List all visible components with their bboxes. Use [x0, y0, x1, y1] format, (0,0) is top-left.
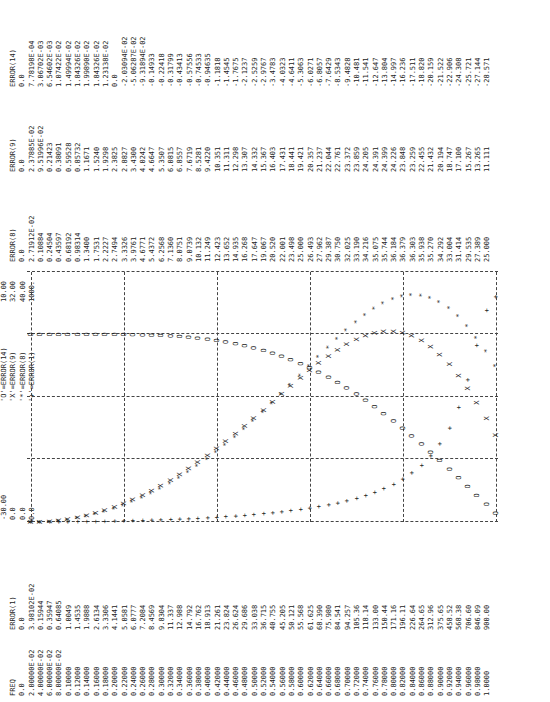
plot-point: O	[390, 419, 397, 423]
plot-point: X	[334, 348, 341, 352]
table-cell: 22.761	[334, 126, 343, 172]
plot-point: *	[307, 364, 314, 368]
plot-point: *	[316, 354, 323, 358]
plot-point: *	[111, 506, 118, 510]
table-cell: 0.60000	[297, 650, 306, 696]
table-cell: 6.54602E-03	[46, 36, 55, 87]
table-cell: 7.1360	[167, 216, 176, 262]
grid-hline	[403, 272, 404, 522]
plot-point: *	[483, 349, 490, 353]
plot-point: X	[344, 342, 351, 346]
plot-point: *	[418, 293, 425, 297]
grid-vline	[27, 396, 498, 397]
plot-point: *	[344, 328, 351, 332]
plot-point: O	[288, 358, 295, 362]
table-cell: -21.522	[437, 36, 446, 87]
table-cell: 0.32000	[167, 650, 176, 696]
table-cell: 4.6647	[148, 126, 157, 172]
plot-point: O	[65, 332, 72, 336]
plot-point: *	[130, 499, 137, 503]
table-cell: 6.0777	[130, 584, 139, 630]
table-cell: 0.88000	[427, 650, 436, 696]
table-cell: 1.1671	[83, 126, 92, 172]
table-cell: 4.0242	[139, 126, 148, 172]
table-cell: 0.15944	[37, 584, 46, 630]
table-cell: -2.9767	[260, 36, 269, 87]
table-cell: 12.988	[176, 584, 185, 630]
table-cell: 50.121	[288, 584, 297, 630]
plot-point: +	[158, 518, 165, 522]
plot-point: O	[28, 332, 35, 336]
plot-point: +	[232, 514, 239, 518]
plot-point: +	[372, 490, 379, 494]
plot-point: +	[334, 501, 341, 505]
table-cell: 0.40000	[204, 650, 213, 696]
table-cell: 0.34000	[176, 650, 185, 696]
table-cell: 0.90000	[437, 650, 446, 696]
plot-point: X	[400, 331, 407, 335]
grid-hline	[310, 272, 311, 522]
plot-point: X	[418, 338, 425, 342]
table-cell: -0.74533	[195, 36, 204, 87]
plot-point: X	[474, 401, 481, 405]
table-cell: 7.6719	[186, 126, 195, 172]
table-cell: 264.65	[418, 584, 427, 630]
plot-point: *	[381, 301, 388, 305]
table-cell: 19.421	[297, 126, 306, 172]
table-cell: 13.307	[241, 126, 250, 172]
table-cell: 22.455	[418, 126, 427, 172]
table-cell: 11.111	[483, 126, 492, 172]
table-cell: 6.2568	[158, 216, 167, 262]
plot-point: *	[372, 306, 379, 310]
table-cell: 196.11	[399, 584, 408, 630]
plot-point: +	[204, 516, 211, 520]
column-header: FREQ	[9, 650, 18, 696]
table-cell: 27.962	[316, 216, 325, 262]
plot-point: O	[400, 426, 407, 430]
table-cell: 33.004	[446, 216, 455, 262]
plot-point: O	[251, 346, 258, 350]
plot-point: +	[390, 482, 397, 486]
plot-point: *	[279, 392, 286, 396]
plot-point: *	[195, 463, 202, 467]
table-cell: 1.9888	[83, 584, 92, 630]
table-cell: -2.03094E-02	[121, 36, 130, 87]
table-cell: 12.423	[214, 216, 223, 262]
plot-point: +	[344, 499, 351, 503]
table-cell: 0.54000	[269, 650, 278, 696]
plot-point: O	[37, 332, 44, 336]
table-cell: 2.7494	[111, 216, 120, 262]
table-cell: 35.938	[418, 216, 427, 262]
plot-point: +	[325, 503, 332, 507]
table-cell: 0.74000	[362, 650, 371, 696]
plot-point: *	[102, 509, 109, 513]
table-cell: 61.625	[307, 584, 316, 630]
plot-point: O	[74, 332, 81, 336]
plot-point: X	[316, 361, 323, 365]
table-cell: 0.0	[18, 650, 27, 696]
plot-point: X	[353, 337, 360, 341]
table-cell: 15.367	[260, 126, 269, 172]
table-cell: 14.332	[251, 126, 260, 172]
table-cell: 0.18000	[102, 650, 111, 696]
table-cell: 31.414	[455, 216, 464, 262]
table-cell: 1.5240	[93, 126, 102, 172]
table-cell: 0.24504	[46, 216, 55, 262]
plot-point: +	[455, 405, 462, 409]
table-cell: 0.10884	[37, 216, 46, 262]
plot-point: *	[400, 294, 407, 298]
plot-point: *	[186, 469, 193, 473]
table-cell: 14.792	[186, 584, 195, 630]
table-cell: 35.075	[372, 216, 381, 262]
plot-point: X	[381, 329, 388, 333]
table-cell: 0.46000	[232, 650, 241, 696]
table-cell: 0.68192	[65, 216, 74, 262]
plot-point: +	[297, 507, 304, 511]
plot-point: O	[241, 343, 248, 347]
plot-point: O	[148, 333, 155, 337]
table-cell: 0.0	[18, 36, 27, 87]
freq-column: FREQ0.02.00000E-024.00000E-026.00000E-02…	[18, 650, 492, 696]
plot-point: *	[167, 481, 174, 485]
table-cell: 846.09	[474, 584, 483, 630]
table-cell: -14.997	[390, 36, 399, 87]
